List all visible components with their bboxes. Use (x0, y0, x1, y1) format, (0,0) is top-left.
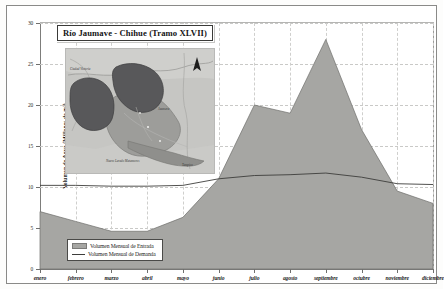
x-tick-junio (219, 269, 220, 273)
x-tick-agosto (290, 269, 291, 273)
y-tick-label-20: 20 (17, 102, 33, 108)
y-tick-label-0: 0 (17, 266, 33, 272)
legend-item-entrada: Volumen Mensual de Entrada (72, 242, 156, 250)
chart-title-box: Río Jaumave - Chihue (Tramo XLVII) (57, 25, 213, 41)
inset-map: Ciudad Victoria Jaumave Nuevo Laredo Mat… (65, 48, 215, 174)
x-axis-label-abril: abril (142, 275, 152, 281)
x-tick-mayo (183, 269, 184, 273)
x-axis-label-agosto: agosto (283, 275, 297, 281)
x-tick-marzo (111, 269, 112, 273)
map-label-0: Ciudad Victoria (70, 67, 90, 71)
map-label-1: Jaumave (158, 107, 169, 111)
legend-swatch-area-icon (72, 243, 87, 250)
x-axis-label-diciembre: diciembre (422, 275, 444, 281)
legend-item-demanda: Volumen Mensual de Demanda (72, 250, 156, 258)
chart-legend: Volumen Mensual de Entrada Volumen Mensu… (67, 239, 163, 261)
x-axis-label-mayo: mayo (177, 275, 189, 281)
x-axis-label-junio: junio (213, 275, 225, 281)
y-tick-label-30: 30 (17, 20, 33, 26)
x-tick-septiembre (326, 269, 327, 273)
chart-title: Río Jaumave - Chihue (Tramo XLVII) (63, 28, 207, 38)
x-axis-label-julio: julio (249, 275, 259, 281)
x-tick-diciembre (433, 269, 434, 273)
legend-label-entrada: Volumen Mensual de Entrada (90, 243, 154, 249)
legend-label-demanda: Volumen Mensual de Demanda (88, 251, 156, 257)
x-axis-label-enero: enero (34, 275, 47, 281)
x-tick-febrero (76, 269, 77, 273)
legend-swatch-line-icon (72, 254, 85, 255)
y-tick-label-10: 10 (17, 184, 33, 190)
y-tick-label-15: 15 (17, 143, 33, 149)
x-axis-label-marzo: marzo (105, 275, 119, 281)
x-axis-label-septiembre: septiembre (314, 275, 338, 281)
x-tick-julio (254, 269, 255, 273)
x-axis-label-octubre: octubre (353, 275, 370, 281)
map-label-3: Tampico (182, 163, 193, 167)
x-tick-noviembre (397, 269, 398, 273)
x-axis-label-febrero: febrero (68, 275, 84, 281)
map-label-2: Nuevo Laredo Matamoros (106, 159, 139, 163)
x-tick-enero (40, 269, 41, 273)
x-axis-label-noviembre: noviembre (386, 275, 409, 281)
y-tick-label-5: 5 (17, 225, 33, 231)
y-tick-label-25: 25 (17, 61, 33, 67)
x-tick-octubre (362, 269, 363, 273)
x-tick-abril (147, 269, 148, 273)
chart-frame: Volumen de Agua (Millones de m³) 0510152… (6, 5, 437, 284)
